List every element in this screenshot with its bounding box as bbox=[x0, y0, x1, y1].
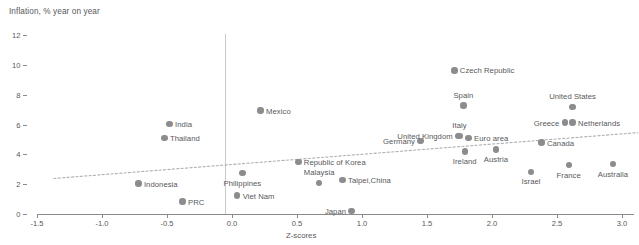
data-point-israel[interactable] bbox=[528, 169, 534, 175]
x-axis-tick-3.0: 3.0 bbox=[602, 219, 639, 228]
y-axis-tick-4: 4 bbox=[5, 150, 27, 159]
y-axis-tick-8: 8 bbox=[5, 91, 27, 100]
y-axis-tick-12: 12 bbox=[5, 31, 27, 40]
data-point-philippines[interactable] bbox=[239, 170, 245, 176]
y-axis-tick-10: 10 bbox=[5, 61, 27, 70]
data-label-indonesia: Indonesia bbox=[144, 179, 178, 188]
data-label-united-kingdom: United Kingdom bbox=[397, 131, 452, 140]
data-label-thailand: Thailand bbox=[170, 134, 200, 143]
data-point-france[interactable] bbox=[566, 162, 572, 168]
x-axis-tickmark-0.5 bbox=[297, 214, 298, 218]
x-axis-tick-1.5: 1.5 bbox=[407, 219, 447, 228]
x-axis-tickmark-0.0 bbox=[232, 214, 233, 218]
data-point-india[interactable] bbox=[166, 121, 172, 127]
data-point-australia[interactable] bbox=[610, 161, 616, 167]
data-label-japan: Japan bbox=[325, 207, 346, 216]
data-point-italy[interactable] bbox=[456, 133, 462, 139]
data-point-malaysia[interactable] bbox=[316, 180, 322, 186]
data-label-mexico: Mexico bbox=[266, 106, 291, 115]
data-label-philippines: Philippines bbox=[224, 179, 262, 188]
data-label-canada: Canada bbox=[547, 138, 574, 147]
data-label-prc: PRC bbox=[188, 197, 204, 206]
x-axis-tickmark-2.0 bbox=[492, 214, 493, 218]
data-label-taipei-china: Taipei,China bbox=[348, 175, 391, 184]
x-axis-label: Z-scores bbox=[286, 231, 316, 240]
y-axis-zero-reference-line bbox=[225, 34, 226, 215]
x-axis-tickmark--1.5 bbox=[37, 214, 38, 218]
x-axis-tick-2.5: 2.5 bbox=[537, 219, 577, 228]
data-point-prc[interactable] bbox=[179, 198, 185, 204]
data-label-netherlands: Netherlands bbox=[578, 118, 620, 127]
data-label-australia: Australia bbox=[598, 170, 628, 179]
data-point-austria[interactable] bbox=[493, 146, 499, 152]
data-label-israel: Israel bbox=[521, 177, 540, 186]
x-axis-tick--1.5: -1.5 bbox=[17, 219, 57, 228]
data-point-spain[interactable] bbox=[460, 102, 466, 108]
data-point-viet-nam[interactable] bbox=[234, 192, 240, 198]
data-label-malaysia: Malaysia bbox=[304, 168, 335, 177]
data-label-ireland: Ireland bbox=[453, 157, 477, 166]
x-axis-tick-0.0: 0.0 bbox=[212, 219, 252, 228]
data-label-czech-republic: Czech Republic bbox=[460, 66, 515, 75]
data-label-india: India bbox=[175, 120, 192, 129]
x-axis-tick--1.0: -1.0 bbox=[82, 219, 122, 228]
x-axis-tick--0.5: -0.5 bbox=[147, 219, 187, 228]
data-label-united-states: United States bbox=[549, 92, 596, 101]
data-label-austria: Austria bbox=[484, 155, 508, 164]
x-axis-tickmark--0.5 bbox=[167, 214, 168, 218]
data-point-czech-republic[interactable] bbox=[451, 67, 457, 73]
data-point-indonesia[interactable] bbox=[135, 180, 141, 186]
x-axis-tickmark-1.5 bbox=[427, 214, 428, 218]
data-point-taipei-china[interactable] bbox=[339, 177, 345, 183]
data-label-viet-nam: Viet Nam bbox=[243, 191, 275, 200]
x-axis-tick-1.0: 1.0 bbox=[342, 219, 382, 228]
data-label-euro-area: Euro area bbox=[474, 134, 508, 143]
data-point-thailand[interactable] bbox=[161, 135, 167, 141]
x-axis-tickmark-3.0 bbox=[622, 214, 623, 218]
y-axis-tick-2: 2 bbox=[5, 180, 27, 189]
x-axis-tick-0.5: 0.5 bbox=[277, 219, 317, 228]
x-axis-tickmark-2.5 bbox=[557, 214, 558, 218]
data-point-ireland[interactable] bbox=[462, 148, 468, 154]
chart-title: Inflation, % year on year bbox=[9, 7, 100, 16]
data-label-republic-of-korea: Republic of Korea bbox=[304, 158, 366, 167]
data-point-netherlands[interactable] bbox=[569, 119, 575, 125]
inflation-zscore-scatter-chart: Inflation, % year on year 024681012 -1.5… bbox=[0, 0, 639, 245]
data-point-mexico[interactable] bbox=[257, 107, 263, 113]
x-axis-tickmark--1.0 bbox=[102, 214, 103, 218]
data-point-euro-area[interactable] bbox=[465, 135, 471, 141]
y-axis-tick-0: 0 bbox=[5, 210, 27, 219]
x-axis-tick-2.0: 2.0 bbox=[472, 219, 512, 228]
data-point-republic-of-korea[interactable] bbox=[295, 159, 301, 165]
data-label-france: France bbox=[557, 171, 581, 180]
data-point-greece[interactable] bbox=[562, 119, 568, 125]
data-label-spain: Spain bbox=[453, 91, 473, 100]
x-axis-tickmark-1.0 bbox=[362, 214, 363, 218]
y-axis-tick-6: 6 bbox=[5, 121, 27, 130]
data-point-canada[interactable] bbox=[538, 139, 544, 145]
data-label-greece: Greece bbox=[534, 118, 560, 127]
data-point-united-states[interactable] bbox=[569, 104, 575, 110]
data-label-italy: Italy bbox=[452, 121, 466, 130]
